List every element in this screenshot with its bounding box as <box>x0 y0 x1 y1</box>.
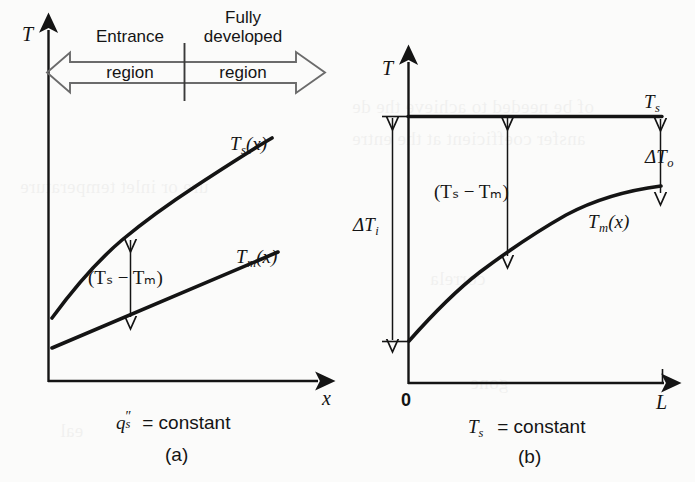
panel-b-label-Ts: Ts <box>644 92 660 114</box>
panel-a-difference-label: (Tₛ − Tₘ) <box>88 268 163 287</box>
banner-fullydeveloped-line2: developed <box>188 27 298 47</box>
panel-b-tick-label-0: 0 <box>401 390 411 411</box>
banner-fullydeveloped-line3: region <box>188 63 298 83</box>
panel-a-label-Ts: Ts(x) <box>230 134 267 156</box>
delta-Ti-label: ΔTi <box>353 215 379 237</box>
panel-a-label-Tm: Tm(x) <box>236 247 277 269</box>
delta-To-label: ΔTo <box>645 147 673 169</box>
panel-b-label-Tm: Tm(x) <box>588 212 629 234</box>
banner-entrance-line2: region <box>78 63 182 83</box>
panel-a-caption: qs″ = constant <box>116 412 230 434</box>
banner-entrance-line1: Entrance <box>78 27 182 47</box>
panel-b-tick-label-L: L <box>656 392 667 412</box>
banner-fullydeveloped-line1: Fully <box>188 8 298 28</box>
panel-a-tag: (a) <box>165 444 188 466</box>
panel-a-curve-Ts <box>52 138 272 318</box>
panel-b-curve-Tm <box>409 186 661 341</box>
panel-a-y-axis-label: T <box>22 24 33 44</box>
panel-b-caption: Ts = constant <box>468 416 585 441</box>
panel-b-difference-label: (Tₛ − Tₘ) <box>434 182 509 201</box>
panel-b-y-axis-label: T <box>382 58 393 78</box>
panel-a-x-axis-label: x <box>322 388 331 408</box>
panel-b-tag: (b) <box>518 446 541 468</box>
figure-container: of be needed to achieve the de ansfer co… <box>0 0 695 482</box>
